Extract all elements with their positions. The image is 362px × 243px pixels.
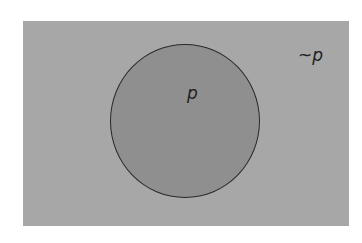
universe-rectangle: p ~p bbox=[23, 21, 349, 226]
set-p-circle bbox=[110, 44, 260, 198]
complement-label: ~p bbox=[298, 47, 323, 64]
set-p-label: p bbox=[187, 85, 198, 102]
